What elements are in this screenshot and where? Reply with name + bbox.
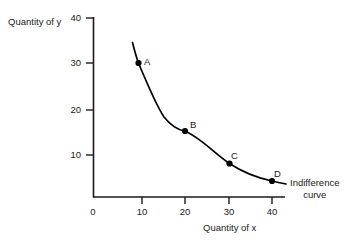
data-point-label-b: B	[190, 119, 196, 131]
indifference-curve-path	[133, 43, 287, 185]
y-tick-label-30: 30	[59, 57, 81, 69]
data-point-label-d: D	[274, 168, 281, 180]
data-point-label-c: C	[231, 150, 238, 162]
x-tick-label-30: 30	[218, 206, 240, 218]
x-tick-label-40: 40	[261, 206, 283, 218]
data-point-b-marker[interactable]	[182, 128, 188, 134]
y-tick-label-20: 20	[59, 104, 81, 116]
x-axis-title: Quantity of x	[203, 222, 256, 234]
curve-annotation-line-1: Indifference	[290, 177, 339, 189]
data-point-label-a: A	[144, 56, 150, 68]
data-point-a-marker[interactable]	[135, 60, 141, 66]
indifference-curve-figure: Quantity of y Quantity of x 40 30 20 10 …	[0, 0, 360, 248]
x-tick-label-0: 0	[82, 206, 104, 218]
y-tick-label-40: 40	[59, 12, 81, 24]
y-axis-title: Quantity of y	[8, 16, 61, 28]
curve-annotation: Indifference curve	[290, 177, 339, 201]
curve-annotation-line-2: curve	[290, 189, 339, 201]
x-tick-label-20: 20	[174, 206, 196, 218]
y-tick-label-10: 10	[59, 149, 81, 161]
x-tick-label-10: 10	[131, 206, 153, 218]
